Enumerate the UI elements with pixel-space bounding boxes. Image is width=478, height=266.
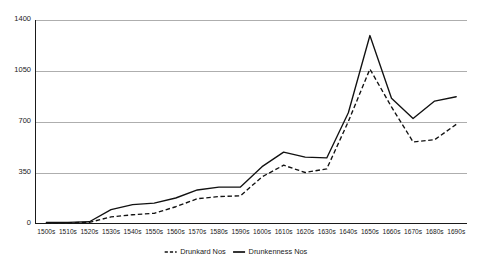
x-tick-label-1670s: 1670s [404,228,423,235]
x-tick-label-1660s: 1660s [383,228,402,235]
x-tick-label-1550s: 1550s [145,228,164,235]
x-tick-label-1640s: 1640s [339,228,358,235]
x-tick-label-1630s: 1630s [318,228,337,235]
x-tick-label-1680s: 1680s [426,228,445,235]
chart-background [0,0,478,266]
y-tick-label-700: 700 [18,116,31,125]
legend-label-drunkard-nos: Drunkard Nos [180,247,226,256]
legend-label-drunkenness-nos: Drunkenness Nos [249,247,308,256]
x-tick-label-1530s: 1530s [102,228,121,235]
x-tick-label-1560s: 1560s [167,228,186,235]
line-chart: 035070010501400 1500s1510s1520s1530s1540… [0,0,478,266]
x-tick-label-1570s: 1570s [188,228,207,235]
x-tick-label-1620s: 1620s [296,228,315,235]
x-tick-label-1540s: 1540s [124,228,143,235]
x-tick-label-1650s: 1650s [361,228,380,235]
x-tick-label-1600s: 1600s [253,228,272,235]
y-tick-label-1050: 1050 [14,65,31,74]
chart-container: 035070010501400 1500s1510s1520s1530s1540… [0,0,478,266]
x-tick-label-1510s: 1510s [59,228,78,235]
x-tick-label-1580s: 1580s [210,228,229,235]
x-tick-label-1690s: 1690s [447,228,466,235]
y-tick-label-350: 350 [18,167,31,176]
x-tick-label-1520s: 1520s [80,228,99,235]
x-tick-label-1610s: 1610s [275,228,294,235]
y-tick-label-1400: 1400 [14,14,31,23]
y-tick-label-0: 0 [27,218,31,227]
x-tick-label-1590s: 1590s [231,228,250,235]
x-tick-label-1500s: 1500s [37,228,56,235]
